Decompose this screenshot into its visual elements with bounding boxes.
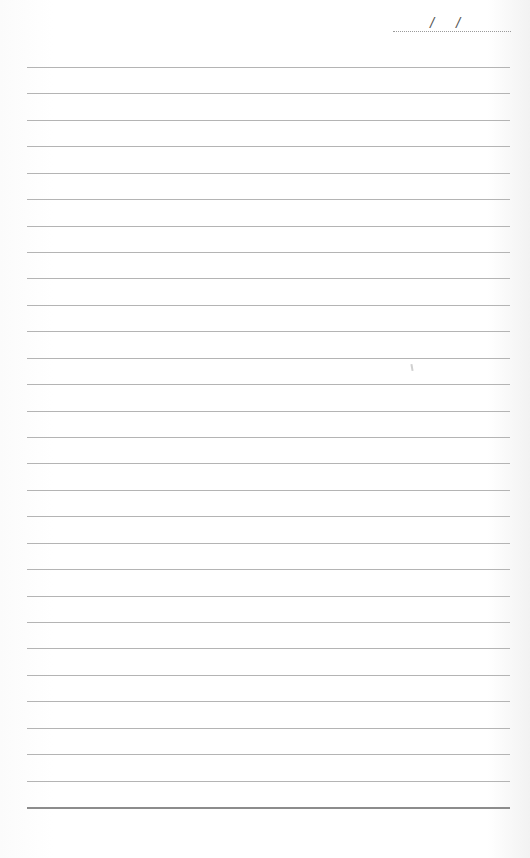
ruled-line [27, 754, 510, 755]
ruled-line [27, 569, 510, 570]
ruled-line [27, 252, 510, 253]
date-field[interactable]: / / [393, 16, 511, 34]
ruled-line [27, 358, 510, 359]
date-separator-1: / [430, 14, 434, 31]
ruled-line [27, 807, 510, 809]
ruled-line [27, 199, 510, 200]
ruled-line [27, 67, 510, 68]
ruled-line [27, 596, 510, 597]
ruled-line [27, 543, 510, 544]
ruled-line [27, 437, 510, 438]
date-separator-2: / [456, 14, 460, 31]
ruled-line [27, 463, 510, 464]
ruled-line [27, 93, 510, 94]
ruled-line [27, 120, 510, 121]
notebook-page: / / [0, 0, 530, 858]
ruled-line [27, 146, 510, 147]
ruled-line [27, 728, 510, 729]
ruled-line [27, 411, 510, 412]
scan-mark [410, 364, 413, 371]
ruled-line [27, 173, 510, 174]
ruled-line [27, 516, 510, 517]
ruled-line [27, 675, 510, 676]
ruled-line [27, 226, 510, 227]
ruled-line [27, 305, 510, 306]
ruled-line [27, 490, 510, 491]
ruled-line [27, 331, 510, 332]
ruled-line [27, 278, 510, 279]
ruled-line [27, 648, 510, 649]
ruled-line [27, 384, 510, 385]
ruled-line [27, 701, 510, 702]
ruled-line [27, 781, 510, 782]
ruled-line [27, 622, 510, 623]
date-dotted-underline [393, 31, 511, 32]
